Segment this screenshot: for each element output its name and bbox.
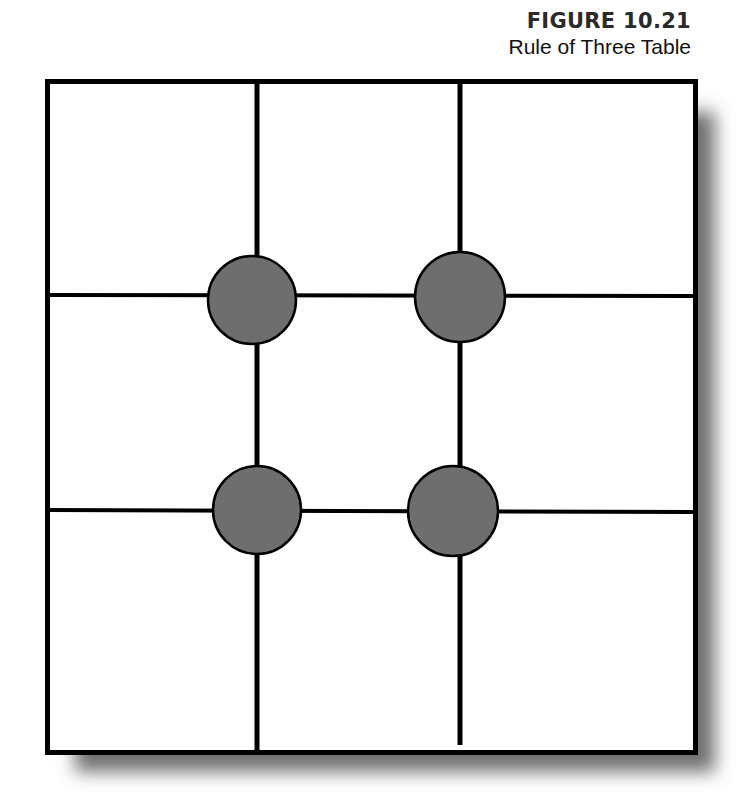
intersection-marker-bottom-right (408, 466, 498, 556)
rule-of-thirds-diagram (0, 0, 751, 803)
frame (48, 82, 696, 753)
intersection-marker-top-left (208, 256, 296, 344)
intersection-marker-bottom-left (213, 466, 301, 554)
intersection-marker-top-right (415, 252, 505, 342)
grid-line-horizontal-bottom (48, 510, 695, 512)
grid-line-horizontal-top (48, 295, 695, 296)
